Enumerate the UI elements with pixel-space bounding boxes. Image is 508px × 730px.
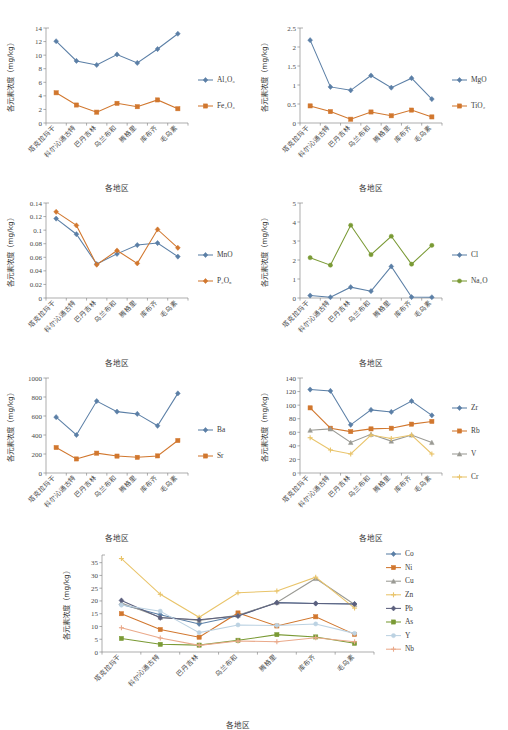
y-tick-label: 2.5	[287, 25, 296, 33]
legend-label: Cu	[405, 576, 414, 585]
legend-item-Y[interactable]: Y	[386, 631, 411, 640]
y-tick-label: 0.14	[30, 200, 43, 208]
legend-item-Co[interactable]: Co	[386, 549, 414, 558]
y-tick-label: 14	[35, 25, 43, 33]
legend-label: P₂O₅	[217, 276, 232, 285]
legend-item-Rb[interactable]: Rb	[452, 426, 480, 435]
legend-item-MnO[interactable]: MnO	[198, 250, 233, 259]
x-axis-title: 各地区	[105, 183, 129, 193]
x-axis-category-label: 乌兰布和	[92, 123, 118, 149]
y-tick-label: 30	[91, 572, 99, 580]
y-tick-label: 0	[293, 295, 297, 303]
legend-label: Cl	[471, 250, 478, 259]
legend-item-Sr[interactable]: Sr	[198, 451, 224, 460]
x-axis-title: 各地区	[359, 358, 383, 368]
chart-panel-4: 012345塔克拉玛干科尔沁通古特巴丹吉林乌兰布和腾格里库布齐毛乌素各地区各元素…	[254, 193, 508, 368]
y-tick-label: 0	[293, 470, 297, 478]
x-axis-category-label: 毛乌素	[335, 652, 356, 673]
y-tick-label: 0.08	[30, 240, 43, 248]
series-P₂O₅	[54, 209, 181, 267]
y-tick-label: 0.12	[30, 213, 43, 221]
y-tick-label: 0	[39, 295, 43, 303]
legend-label: Ba	[217, 425, 226, 434]
series-Nb	[119, 625, 357, 648]
y-tick-label: 1000	[28, 375, 43, 383]
y-tick-label: 400	[32, 432, 43, 440]
series-Fe₂O₃	[54, 91, 180, 115]
series-Cl	[308, 264, 435, 300]
legend-item-V[interactable]: V	[452, 449, 477, 458]
legend-label: V	[471, 449, 477, 458]
chart-panel-2: 00.511.522.5塔克拉玛干科尔沁通古特巴丹吉林乌兰布和腾格里库布齐毛乌素…	[254, 18, 508, 193]
y-tick-label: 12	[35, 38, 43, 46]
x-axis-category-label: 毛乌素	[412, 123, 433, 144]
y-axis-title: 各元素浓度（mg/kg）	[260, 389, 269, 461]
y-tick-label: 0.06	[30, 254, 43, 262]
legend-item-P₂O₅[interactable]: P₂O₅	[198, 276, 232, 285]
y-tick-label: 120	[286, 388, 297, 396]
legend-item-Cl[interactable]: Cl	[452, 250, 478, 259]
y-tick-label: 1	[293, 276, 297, 284]
chart-panel-7: 05101520253035塔克拉玛干科尔沁通古特巴丹吉林乌兰布和腾格里库布齐毛…	[60, 545, 460, 730]
figure-sheet: 02468101214塔克拉玛干科尔沁通古特巴丹吉林乌兰布和腾格里库布齐毛乌素各…	[0, 0, 508, 730]
y-tick-label: 200	[32, 451, 43, 459]
y-tick-label: 4	[293, 219, 297, 227]
x-axis-category-label: 腾格里	[371, 123, 392, 144]
chart-panel-6: 020406080100120140塔克拉玛干科尔沁通古特巴丹吉林乌兰布和腾格里…	[254, 368, 508, 543]
x-axis-category-label: 库布齐	[138, 473, 159, 494]
x-axis-title: 各地区	[226, 720, 250, 730]
y-tick-label: 6	[39, 79, 43, 87]
panel-6-svg: 020406080100120140塔克拉玛干科尔沁通古特巴丹吉林乌兰布和腾格里…	[254, 368, 508, 543]
x-axis-category-label: 腾格里	[371, 298, 392, 319]
x-axis-category-label: 毛乌素	[412, 473, 433, 494]
legend-label: Na₂O	[471, 276, 488, 285]
legend-item-Cr[interactable]: Cr	[452, 472, 479, 481]
legend-label: Zr	[471, 403, 479, 412]
series-Na₂O	[308, 223, 434, 267]
legend-label: Pb	[405, 604, 413, 613]
x-axis-category-label: 腾格里	[117, 473, 138, 494]
y-tick-label: 8	[39, 65, 43, 73]
x-axis-category-label: 毛乌素	[158, 123, 179, 144]
x-axis-category-label: 库布齐	[296, 652, 317, 673]
legend-label: Ni	[405, 563, 412, 572]
chart-panel-3: 00.020.040.060.080.10.120.14塔克拉玛干科尔沁通古特巴…	[0, 193, 254, 368]
legend-item-Ba[interactable]: Ba	[198, 425, 226, 434]
x-axis-title: 各地区	[105, 533, 129, 543]
x-axis-category-label: 乌兰布和	[92, 473, 118, 499]
legend-item-Ni[interactable]: Ni	[386, 563, 412, 572]
legend-label: Y	[405, 631, 411, 640]
y-tick-label: 5	[95, 636, 99, 644]
y-tick-label: 0.02	[30, 281, 43, 289]
y-tick-label: 1.5	[287, 63, 296, 71]
legend-item-MgO[interactable]: MgO	[452, 75, 487, 84]
y-axis-title: 各元素浓度（mg/kg）	[62, 567, 71, 639]
legend-label: Cr	[471, 472, 479, 481]
legend-item-Zr[interactable]: Zr	[452, 403, 479, 412]
legend-label: Co	[405, 549, 414, 558]
x-axis-title: 各地区	[359, 533, 383, 543]
legend-item-Nb[interactable]: Nb	[386, 644, 414, 653]
legend-item-Zn[interactable]: Zn	[386, 590, 414, 599]
y-axis-title: 各元素浓度（mg/kg）	[6, 39, 15, 111]
legend-item-Al₂O₃[interactable]: Al₂O₃	[198, 75, 235, 84]
x-axis-category-label: 乌兰布和	[346, 298, 372, 324]
y-tick-label: 0.04	[30, 267, 43, 275]
legend-item-Cu[interactable]: Cu	[386, 576, 414, 585]
x-axis-category-label: 科尔沁通古特	[126, 652, 162, 688]
y-tick-label: 0	[39, 120, 43, 128]
x-axis-category-label: 库布齐	[138, 123, 159, 144]
panel-4-svg: 012345塔克拉玛干科尔沁通古特巴丹吉林乌兰布和腾格里库布齐毛乌素各地区各元素…	[254, 193, 508, 368]
legend-label: As	[405, 617, 413, 626]
y-tick-label: 40	[289, 442, 297, 450]
legend-item-TiO₂[interactable]: TiO₂	[452, 101, 486, 110]
legend-item-Pb[interactable]: Pb	[386, 604, 413, 613]
y-tick-label: 1	[293, 82, 297, 90]
y-tick-label: 800	[32, 394, 43, 402]
x-axis-category-label: 库布齐	[138, 298, 159, 319]
legend-item-Na₂O[interactable]: Na₂O	[452, 276, 488, 285]
x-axis-category-label: 乌兰布和	[346, 123, 372, 149]
legend-item-As[interactable]: As	[386, 617, 413, 626]
y-tick-label: 15	[91, 610, 99, 618]
legend-item-Fe₂O₃[interactable]: Fe₂O₃	[198, 101, 235, 110]
